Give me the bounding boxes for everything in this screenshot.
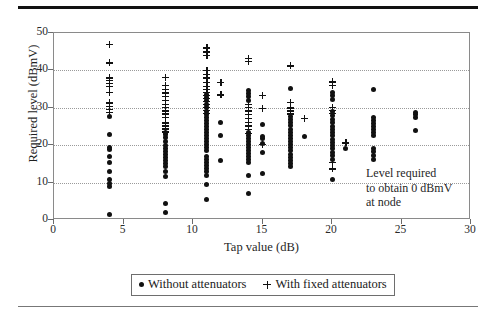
- x-tick-mark-15: [262, 219, 263, 224]
- x-tick-mark-5: [123, 219, 124, 224]
- data-point: [301, 115, 308, 122]
- data-point: [287, 62, 294, 69]
- y-tick-label-30: 30: [22, 101, 48, 113]
- data-point: [259, 141, 266, 148]
- data-point: [245, 55, 252, 62]
- x-tick-label-20: 20: [316, 224, 346, 236]
- data-point: [162, 74, 169, 81]
- plus-marker-icon: [263, 281, 271, 289]
- data-point: [245, 101, 252, 108]
- x-tick-label-25: 25: [386, 224, 416, 236]
- x-tick-label-5: 5: [108, 224, 138, 236]
- legend: Without attenuators With fixed attenuato…: [131, 274, 395, 296]
- legend-entry-without-attenuators: Without attenuators: [139, 277, 246, 292]
- x-tick-mark-30: [470, 219, 471, 224]
- x-axis-title: Tap value (dB): [53, 240, 470, 255]
- data-point: [162, 82, 169, 89]
- data-point: [106, 59, 113, 66]
- x-tick-label-0: 0: [38, 224, 68, 236]
- x-tick-mark-0: [53, 219, 54, 224]
- legend-label-with-fixed-attenuators: With fixed attenuators: [275, 277, 386, 292]
- data-point: [106, 99, 113, 106]
- annotation-line-1: Level required: [366, 166, 452, 181]
- annotation-line-2: to obtain 0 dBmV: [366, 181, 452, 196]
- x-tick-mark-25: [401, 219, 402, 224]
- x-tick-mark-10: [192, 219, 193, 224]
- data-point: [342, 139, 349, 146]
- data-point: [203, 44, 210, 51]
- y-tick-label-50: 50: [22, 26, 48, 38]
- y-tick-label-10: 10: [22, 176, 48, 188]
- top-rule: [18, 6, 478, 9]
- data-point: [217, 79, 224, 86]
- data-point: [217, 91, 224, 98]
- legend-label-without-attenuators: Without attenuators: [148, 277, 246, 292]
- data-point: [259, 105, 266, 112]
- y-tick-label-20: 20: [22, 138, 48, 150]
- x-tick-label-30: 30: [455, 224, 485, 236]
- annotation-line-3: at node: [366, 195, 452, 210]
- x-tick-label-15: 15: [247, 224, 277, 236]
- dot-marker-icon: [139, 282, 144, 287]
- y-tick-label-0: 0: [22, 213, 48, 225]
- x-tick-label-10: 10: [177, 224, 207, 236]
- data-point: [329, 159, 336, 166]
- x-tick-mark-20: [331, 219, 332, 224]
- data-point: [203, 67, 210, 74]
- data-point: [106, 41, 113, 48]
- data-point: [287, 99, 294, 106]
- data-point: [106, 74, 113, 81]
- data-point: [106, 89, 113, 96]
- data-point: [329, 78, 336, 85]
- bottom-rule: [18, 306, 478, 307]
- figure-container: Required level (dBmV) 01020304050 Level …: [0, 0, 493, 317]
- data-point: [329, 165, 336, 172]
- level-required-annotation: Level required to obtain 0 dBmV at node: [366, 166, 452, 210]
- data-point: [329, 104, 336, 111]
- y-tick-label-40: 40: [22, 63, 48, 75]
- data-point: [259, 92, 266, 99]
- legend-entry-with-fixed-attenuators: With fixed attenuators: [263, 277, 386, 292]
